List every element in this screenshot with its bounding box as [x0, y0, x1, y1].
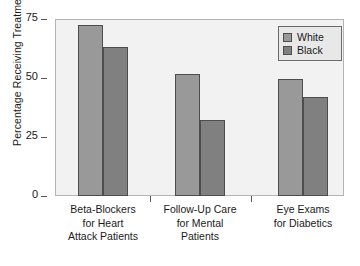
y-tick-label-50: 50: [26, 70, 38, 82]
legend-item-black: Black: [283, 44, 337, 56]
legend-label-white: White: [297, 32, 324, 43]
bar-black-beta-blockers: [103, 47, 128, 196]
y-tick-mark-25: [41, 137, 47, 138]
y-tick-mark-0: [41, 196, 47, 197]
y-tick-label-25: 25: [26, 129, 38, 141]
y-tick-25: 25: [0, 137, 47, 138]
x-axis-group-label-eye-exams: Eye Exams for Diabetics: [245, 203, 360, 230]
x-tick-divider-2: [251, 196, 252, 202]
bar-white-beta-blockers: [78, 25, 103, 196]
x-tick-divider-1: [150, 196, 151, 202]
legend: White Black: [278, 26, 342, 61]
legend-label-black: Black: [297, 45, 323, 56]
bar-black-eye-exams: [303, 97, 328, 196]
bar-chart: Percentage Receiving Treatment 75 50 25 …: [0, 0, 360, 266]
y-tick-label-75: 75: [26, 11, 38, 23]
y-tick-label-0: 0: [32, 188, 38, 200]
bar-white-eye-exams: [278, 79, 303, 196]
legend-swatch-white: [283, 33, 292, 42]
y-tick-mark-50: [41, 78, 47, 79]
y-tick-0: 0: [0, 196, 47, 197]
y-tick-50: 50: [0, 78, 47, 79]
x-axis-group-label-follow-up-care: Follow-Up Care for Mental Patients: [142, 203, 258, 244]
bar-white-follow-up-care: [175, 74, 200, 196]
y-tick-mark-75: [41, 19, 47, 20]
y-axis-label: Percentage Receiving Treatment: [11, 0, 23, 163]
legend-item-white: White: [283, 31, 337, 43]
y-tick-75: 75: [0, 19, 47, 20]
legend-swatch-black: [283, 46, 292, 55]
bar-black-follow-up-care: [200, 120, 225, 196]
